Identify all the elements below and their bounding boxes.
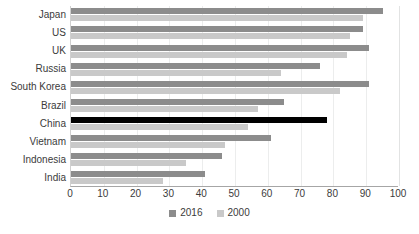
- category-label: Japan: [0, 6, 66, 24]
- category-label: US: [0, 24, 66, 42]
- bar-group: [71, 78, 398, 96]
- bar-2016: [71, 171, 205, 177]
- legend-swatch-icon: [217, 210, 224, 217]
- x-tick-label: 90: [350, 188, 380, 199]
- legend-item: 2016: [169, 208, 202, 218]
- bar-group: [71, 97, 398, 115]
- bar-group: [71, 24, 398, 42]
- category-label: Russia: [0, 60, 66, 78]
- x-tick-label: 100: [383, 188, 413, 199]
- bar-rows: [71, 6, 398, 186]
- x-tick-label: 20: [121, 188, 151, 199]
- bar-group: [71, 115, 398, 133]
- category-label: India: [0, 169, 66, 187]
- bar-2000: [71, 142, 225, 148]
- plot-area: [70, 6, 398, 187]
- bar-2016: [71, 153, 222, 159]
- bar-2016: [71, 26, 363, 32]
- chart-legend: 20162000: [0, 208, 419, 218]
- bar-2016: [71, 63, 320, 69]
- bar-2016: [71, 45, 369, 51]
- bar-2000: [71, 70, 281, 76]
- bar-2000: [71, 106, 258, 112]
- legend-label: 2000: [228, 208, 250, 218]
- bar-2000: [71, 160, 186, 166]
- x-axis-tick-labels: 0102030405060708090100: [70, 188, 398, 204]
- category-label: Indonesia: [0, 151, 66, 169]
- category-label: China: [0, 115, 66, 133]
- bar-2000: [71, 15, 363, 21]
- legend-item: 2000: [217, 208, 250, 218]
- category-label: Vietnam: [0, 133, 66, 151]
- bar-2016: [71, 117, 327, 123]
- x-tick-label: 30: [153, 188, 183, 199]
- x-tick-label: 50: [219, 188, 249, 199]
- bar-2000: [71, 124, 248, 130]
- x-tick-label: 40: [186, 188, 216, 199]
- bar-2000: [71, 52, 347, 58]
- category-label: South Korea: [0, 78, 66, 96]
- legend-swatch-icon: [169, 210, 176, 217]
- category-label: UK: [0, 42, 66, 60]
- bar-group: [71, 6, 398, 24]
- bar-chart: JapanUSUKRussiaSouth KoreaBrazilChinaVie…: [0, 0, 419, 234]
- x-tick-label: 70: [285, 188, 315, 199]
- x-tick-label: 80: [317, 188, 347, 199]
- bar-2000: [71, 178, 163, 184]
- bar-2016: [71, 135, 271, 141]
- x-tick-label: 10: [88, 188, 118, 199]
- bar-2016: [71, 81, 369, 87]
- bar-2016: [71, 99, 284, 105]
- bar-group: [71, 151, 398, 169]
- bar-2000: [71, 88, 340, 94]
- bar-group: [71, 42, 398, 60]
- bar-group: [71, 60, 398, 78]
- bar-group: [71, 169, 398, 187]
- bar-group: [71, 133, 398, 151]
- legend-label: 2016: [180, 208, 202, 218]
- x-tick-label: 60: [252, 188, 282, 199]
- bar-2016: [71, 8, 383, 14]
- gridline-100: [399, 6, 400, 186]
- x-tick-label: 0: [55, 188, 85, 199]
- category-label: Brazil: [0, 97, 66, 115]
- bar-2000: [71, 33, 350, 39]
